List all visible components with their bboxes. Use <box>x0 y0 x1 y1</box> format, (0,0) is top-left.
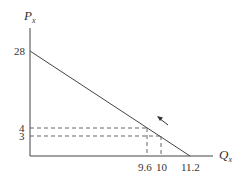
y-axis-title: Px <box>23 8 36 25</box>
movement-arrow-icon <box>157 116 168 125</box>
demand-chart: 28 4 3 9.6 10 11.2 Px Qx <box>0 0 241 181</box>
x-tick-11.2: 11.2 <box>181 161 200 173</box>
y-tick-28: 28 <box>14 45 26 57</box>
x-axis-title: Qx <box>219 147 232 164</box>
demand-line <box>30 51 190 156</box>
x-tick-10: 10 <box>156 161 168 173</box>
y-tick-3: 3 <box>19 130 25 142</box>
x-tick-9.6: 9.6 <box>138 161 152 173</box>
